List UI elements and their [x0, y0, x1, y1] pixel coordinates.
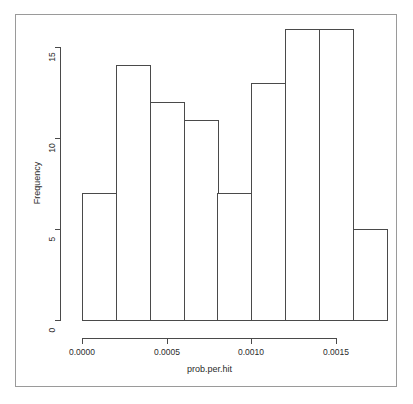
histogram-figure: 051015 0.00000.00050.00100.0015 Frequenc…: [0, 0, 413, 404]
histogram-bar: [217, 193, 252, 321]
bars-baseline: [82, 320, 388, 321]
histogram-bar: [116, 65, 151, 321]
histogram-bar: [319, 29, 354, 321]
histogram-bar: [82, 193, 117, 321]
histogram-bar: [251, 83, 286, 321]
histogram-bar: [184, 120, 219, 321]
histogram-bars: [0, 0, 413, 404]
histogram-bar: [150, 102, 185, 321]
histogram-bar: [285, 29, 320, 321]
histogram-bar: [353, 229, 388, 321]
